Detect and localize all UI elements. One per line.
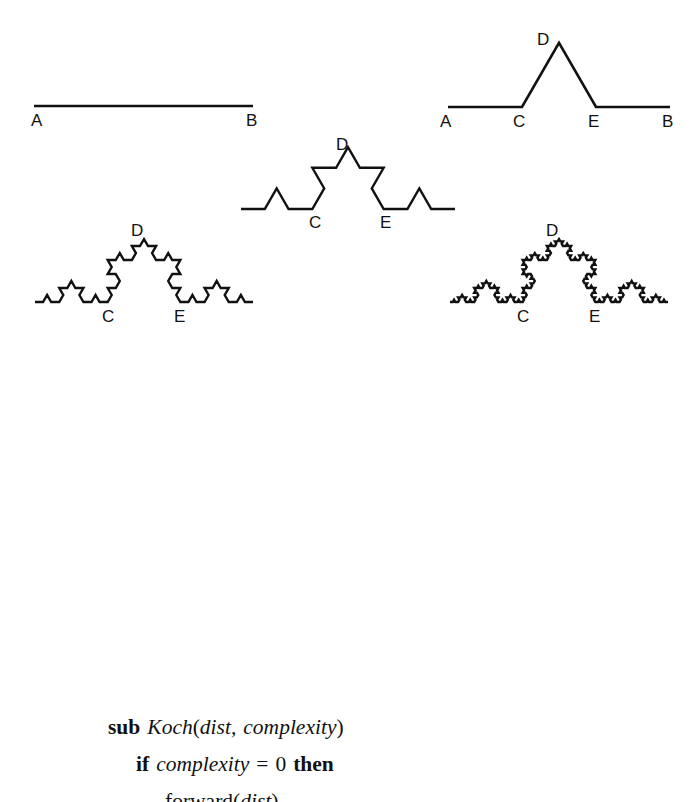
koch-order-0-label-b: B xyxy=(246,112,257,129)
token-zero: 0 xyxy=(275,752,286,776)
code-line-sub-koch: subKoch(dist,complexity) xyxy=(108,714,344,740)
token-then: then xyxy=(293,752,334,776)
koch-figure-panel: ABDACEBDCEDCEDCE xyxy=(0,0,691,340)
token-koch: Koch xyxy=(147,715,192,739)
koch-order-1-label-b: B xyxy=(662,113,673,130)
token-open-paren: ( xyxy=(193,715,200,739)
token-dist: dist xyxy=(240,789,271,802)
pseudocode-block: subKoch(dist,complexity) ifcomplexity=0t… xyxy=(0,352,691,802)
token-complexity: complexity xyxy=(243,715,336,739)
token-forward: forward xyxy=(165,789,233,802)
token-close-paren: ) xyxy=(271,789,278,802)
koch-order-1-label-d: D xyxy=(537,31,549,48)
koch-order-1 xyxy=(448,43,670,107)
koch-order-1-label-e: E xyxy=(588,113,599,130)
token-sub: sub xyxy=(108,715,140,739)
koch-order-3-label-e: E xyxy=(174,308,185,325)
koch-order-1-label-a: A xyxy=(440,113,451,130)
token-close-paren: ) xyxy=(336,715,343,739)
koch-order-3-label-d: D xyxy=(131,222,143,239)
koch-curves-svg xyxy=(0,0,691,340)
koch-order-3 xyxy=(35,239,253,302)
koch-order-0-label-a: A xyxy=(31,112,42,129)
koch-order-2-label-c: C xyxy=(309,214,321,231)
token-comma: , xyxy=(231,715,236,739)
token-equals: = xyxy=(256,752,268,776)
koch-order-4-label-e: E xyxy=(589,308,600,325)
koch-order-4-label-c: C xyxy=(517,308,529,325)
koch-order-2-label-d: D xyxy=(336,136,348,153)
koch-order-4-label-d: D xyxy=(546,222,558,239)
koch-order-3-label-c: C xyxy=(102,308,114,325)
koch-order-1-label-c: C xyxy=(513,113,525,130)
token-if: if xyxy=(136,752,149,776)
token-dist: dist xyxy=(200,715,231,739)
koch-order-4 xyxy=(450,239,668,302)
koch-order-2 xyxy=(241,147,455,209)
koch-order-2-label-e: E xyxy=(380,214,391,231)
code-line-forward: forward(dist) xyxy=(165,788,278,802)
code-line-if: ifcomplexity=0then xyxy=(136,751,334,777)
token-complexity: complexity xyxy=(156,752,249,776)
